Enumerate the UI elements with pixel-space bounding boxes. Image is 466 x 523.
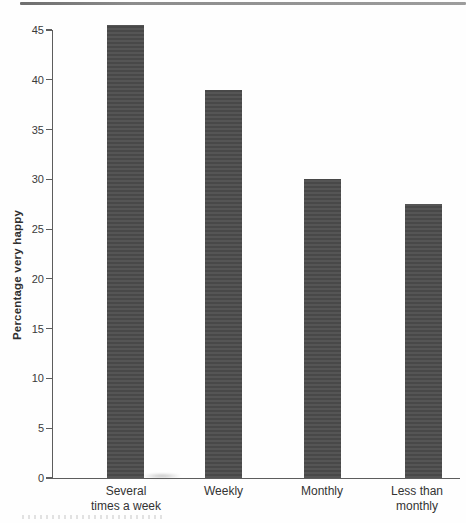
y-tick-label: 15 (16, 322, 44, 336)
y-tick-mark (46, 328, 52, 329)
bar-chart: Percentage very happy 051015202530354045… (0, 0, 466, 523)
bar-less-than-monthly (405, 204, 442, 478)
bar-weekly (205, 90, 242, 478)
y-tick-mark (46, 79, 52, 80)
x-category-label: Less thanmonthly (357, 484, 466, 513)
y-tick-mark (46, 129, 52, 130)
y-tick-label: 30 (16, 172, 44, 186)
bar-several-times-a-week (107, 25, 144, 478)
y-tick-mark (46, 229, 52, 230)
bar-monthly (304, 179, 341, 478)
y-tick-label: 35 (16, 123, 44, 137)
y-tick-label: 10 (16, 371, 44, 385)
y-tick-mark (46, 378, 52, 379)
y-tick-label: 25 (16, 222, 44, 236)
y-tick-label: 45 (16, 23, 44, 37)
y-tick-label: 20 (16, 272, 44, 286)
y-axis-line (52, 30, 53, 478)
y-tick-mark (46, 29, 52, 30)
y-tick-mark (46, 179, 52, 180)
y-tick-label: 5 (16, 421, 44, 435)
y-tick-mark (46, 428, 52, 429)
y-tick-mark (46, 278, 52, 279)
y-tick-label: 0 (16, 471, 44, 485)
scanned-page: Percentage very happy 051015202530354045… (0, 0, 466, 523)
y-tick-mark (46, 477, 52, 478)
y-tick-label: 40 (16, 73, 44, 87)
cropped-caption-remnant (22, 515, 164, 519)
scan-smudge-artifact (142, 473, 182, 479)
